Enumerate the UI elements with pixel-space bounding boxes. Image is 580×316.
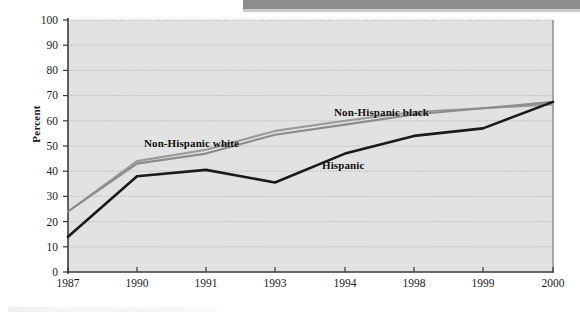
series-label-hispanic: Hispanic — [322, 159, 364, 171]
x-tick-1987: 1987 — [57, 277, 80, 289]
x-tick-1993: 1993 — [264, 277, 287, 289]
x-tick-1991: 1991 — [195, 277, 218, 289]
scan-artifact-bottom-text — [8, 307, 218, 312]
series-label-non-hispanic-white: Non-Hispanic white — [144, 137, 239, 149]
x-tick-1999: 1999 — [472, 277, 495, 289]
line-chart-figure: Percent 100 90 80 70 60 50 40 30 20 10 0 — [0, 0, 580, 316]
x-tick-2000: 2000 — [542, 277, 565, 289]
x-axis-tick-labels: 1987 1990 1991 1993 1994 1998 1999 2000 — [0, 0, 580, 316]
series-label-non-hispanic-black: Non-Hispanic black — [334, 106, 429, 118]
x-tick-1990: 1990 — [126, 277, 149, 289]
x-tick-1994: 1994 — [334, 277, 357, 289]
x-tick-1998: 1998 — [403, 277, 426, 289]
